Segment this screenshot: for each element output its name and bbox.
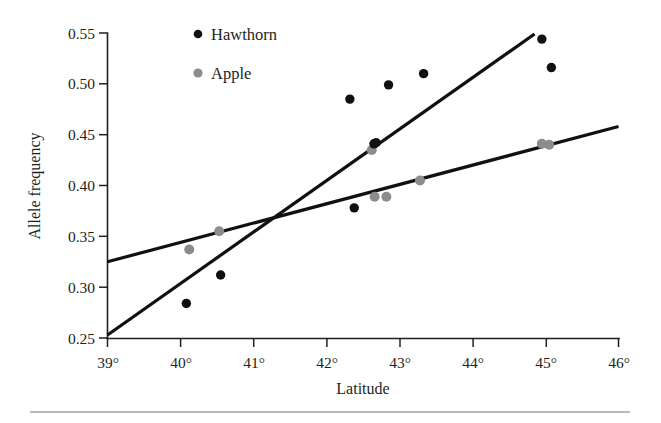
data-point-apple: [214, 226, 224, 236]
x-tick-label: 43°: [389, 354, 411, 371]
data-point-hawthorn: [371, 138, 380, 147]
regression-line-hawthorn: [108, 34, 535, 335]
x-tick-label: 46°: [608, 354, 630, 371]
data-point-hawthorn: [182, 299, 191, 308]
y-tick-label: 0.40: [68, 177, 95, 194]
data-point-apple: [415, 175, 425, 185]
data-point-apple: [381, 192, 391, 202]
legend: Hawthorn Apple: [193, 25, 277, 83]
y-tick-label: 0.25: [68, 330, 95, 347]
data-point-hawthorn: [216, 270, 225, 279]
y-axis-title: Allele frequency: [26, 132, 44, 239]
data-point-hawthorn: [384, 80, 393, 89]
y-tick-label: 0.35: [68, 228, 95, 245]
data-point-apple: [370, 192, 380, 202]
figure-container: 0.55 0.50 0.45 0.40 0.35 0.30 0.25 39° 4…: [0, 0, 661, 423]
y-tick-label: 0.55: [68, 25, 95, 42]
y-tick-label: 0.50: [68, 75, 95, 92]
legend-marker-hawthorn: [194, 30, 203, 39]
x-tick-label: 45°: [535, 354, 557, 371]
data-point-hawthorn: [345, 94, 354, 103]
legend-label-hawthorn: Hawthorn: [211, 25, 277, 44]
y-tick-label: 0.45: [68, 126, 95, 143]
x-axis-title: Latitude: [336, 380, 389, 397]
data-point-hawthorn: [419, 69, 428, 78]
data-point-apple: [184, 245, 194, 255]
x-axis-tick-labels: 39° 40° 41° 42° 43° 44° 45° 46°: [97, 354, 630, 371]
data-point-hawthorn: [537, 34, 546, 43]
legend-label-apple: Apple: [211, 64, 251, 83]
y-tick-label: 0.30: [68, 279, 95, 296]
data-point-apple: [544, 140, 554, 150]
scatter-plot: 0.55 0.50 0.45 0.40 0.35 0.30 0.25 39° 4…: [0, 0, 661, 423]
regression-lines: [108, 34, 619, 335]
x-tick-label: 39°: [97, 354, 119, 371]
x-tick-label: 41°: [243, 354, 265, 371]
x-tick-label: 42°: [316, 354, 338, 371]
x-tick-label: 40°: [170, 354, 192, 371]
x-tick-label: 44°: [462, 354, 484, 371]
data-point-hawthorn: [547, 63, 556, 72]
legend-marker-apple: [193, 68, 202, 77]
y-axis-tick-labels: 0.55 0.50 0.45 0.40 0.35 0.30 0.25: [68, 25, 95, 347]
data-points-apple: [184, 139, 554, 255]
data-point-hawthorn: [350, 203, 359, 212]
y-axis-ticks: [99, 33, 107, 338]
figure-bottom-divider: [30, 411, 630, 413]
x-axis-ticks: [108, 338, 619, 347]
